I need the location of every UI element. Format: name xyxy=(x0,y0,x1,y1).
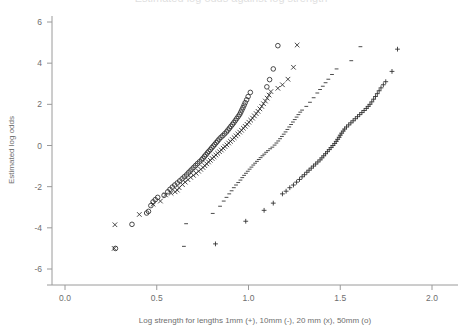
x-tick-label: 1.5 xyxy=(334,293,346,303)
plot-canvas: Estimated log odds against log strength … xyxy=(0,0,463,334)
y-tick-label: 6 xyxy=(37,17,42,27)
y-axis-label: Estimated log odds xyxy=(7,116,16,184)
y-tick-label: -4 xyxy=(34,223,42,233)
y-tick-label: 2 xyxy=(37,99,42,109)
y-tick-label: 0 xyxy=(37,141,42,151)
x-tick-label: 0.0 xyxy=(59,293,71,303)
x-tick-label: 1.0 xyxy=(243,293,255,303)
scatter-plot-figure: Estimated log odds against log strength … xyxy=(0,0,463,334)
plot-background xyxy=(0,0,463,334)
y-tick-label: -6 xyxy=(34,264,42,274)
y-tick-label: 4 xyxy=(37,58,42,68)
x-tick-label: 2.0 xyxy=(426,293,438,303)
x-tick-label: 0.5 xyxy=(151,293,163,303)
chart-title: Estimated log odds against log strength xyxy=(135,0,328,4)
y-tick-label: -2 xyxy=(34,182,42,192)
x-axis-label: Log strength for lengths 1mm (+), 10mm (… xyxy=(139,316,372,325)
